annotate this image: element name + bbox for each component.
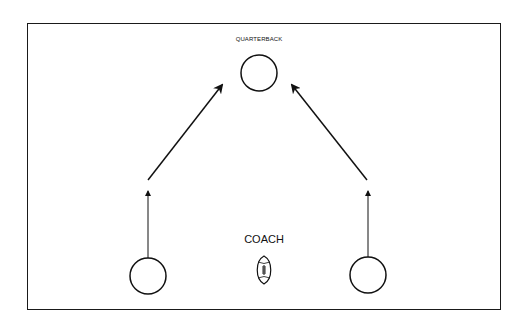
quarterback-label: QUARTERBACK bbox=[236, 36, 283, 42]
coach-label: COACH bbox=[244, 233, 284, 245]
right-diagonal-route-arrow bbox=[292, 85, 367, 180]
left-player-circle bbox=[130, 258, 166, 294]
football-icon bbox=[257, 256, 271, 284]
right-player-circle bbox=[350, 257, 386, 293]
play-diagram bbox=[0, 0, 526, 326]
left-diagonal-route-arrow bbox=[148, 85, 222, 180]
quarterback-circle bbox=[241, 55, 277, 91]
